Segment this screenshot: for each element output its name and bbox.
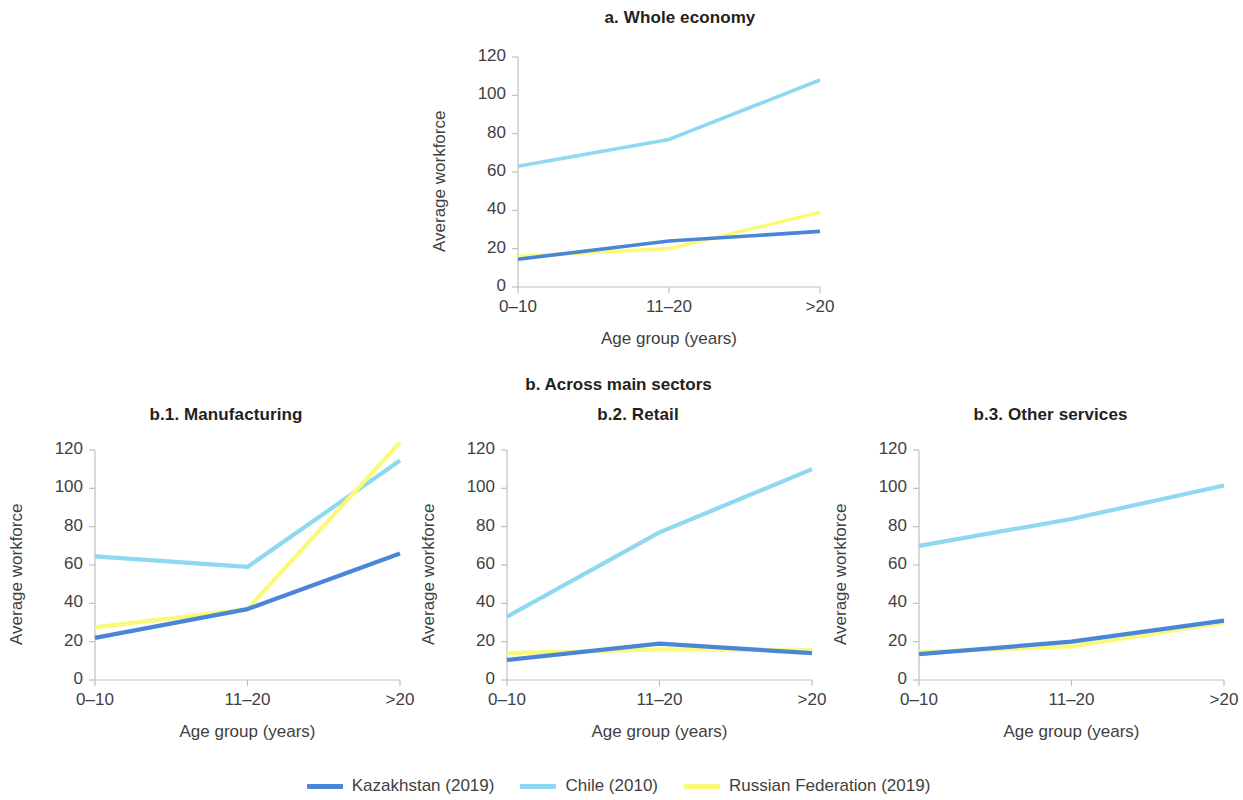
y-tick-label: 40 xyxy=(445,592,495,612)
chart-legend: Kazakhstan (2019)Chile (2010)Russian Fed… xyxy=(0,776,1237,796)
x-axis-title: Age group (years) xyxy=(128,722,368,742)
x-tick-label: 0–10 xyxy=(468,297,568,317)
y-tick-label: 80 xyxy=(445,516,495,536)
y-tick-label: 40 xyxy=(33,592,83,612)
y-axis-title: Average workforce xyxy=(430,111,450,252)
y-tick-label: 100 xyxy=(857,477,907,497)
y-axis-title: Average workforce xyxy=(831,504,851,645)
x-tick-label: 11–20 xyxy=(610,690,710,710)
y-tick-label: 100 xyxy=(33,477,83,497)
legend-swatch-icon xyxy=(307,784,343,789)
panel-other-services: b.3. Other services 0204060801001200–101… xyxy=(824,405,1237,760)
legend-swatch-icon xyxy=(684,784,720,789)
y-tick-label: 60 xyxy=(857,554,907,574)
series-line xyxy=(919,621,1224,655)
section-title-across-main-sectors: b. Across main sectors xyxy=(0,375,1237,395)
y-tick-label: 0 xyxy=(33,669,83,689)
y-axis-title: Average workforce xyxy=(7,504,27,645)
plot-area-other-services: 0204060801001200–1011–20>20Average workf… xyxy=(824,405,1237,760)
x-tick-label: 0–10 xyxy=(869,690,969,710)
y-tick-label: 0 xyxy=(445,669,495,689)
y-tick-label: 60 xyxy=(445,554,495,574)
plot-area-whole-economy: 0204060801001200–1011–20>20Average workf… xyxy=(415,8,885,358)
y-tick-label: 80 xyxy=(857,516,907,536)
legend-item[interactable]: Russian Federation (2019) xyxy=(684,776,930,796)
legend-label: Kazakhstan (2019) xyxy=(352,776,495,796)
x-tick-label: >20 xyxy=(770,297,870,317)
y-tick-label: 100 xyxy=(456,84,506,104)
y-tick-label: 100 xyxy=(445,477,495,497)
y-tick-label: 80 xyxy=(33,516,83,536)
series-line xyxy=(518,231,820,259)
y-tick-label: 120 xyxy=(445,439,495,459)
legend-item[interactable]: Chile (2010) xyxy=(520,776,658,796)
legend-item[interactable]: Kazakhstan (2019) xyxy=(307,776,495,796)
series-line xyxy=(95,442,400,627)
y-tick-label: 0 xyxy=(456,276,506,296)
x-tick-label: 11–20 xyxy=(1022,690,1122,710)
y-tick-label: 60 xyxy=(456,161,506,181)
y-tick-label: 60 xyxy=(33,554,83,574)
series-line xyxy=(518,80,820,166)
legend-swatch-icon xyxy=(520,784,556,789)
y-tick-label: 120 xyxy=(857,439,907,459)
y-tick-label: 80 xyxy=(456,123,506,143)
x-tick-label: 0–10 xyxy=(45,690,145,710)
y-tick-label: 20 xyxy=(445,631,495,651)
plot-area-retail: 0204060801001200–1011–20>20Average workf… xyxy=(412,405,824,760)
x-tick-label: >20 xyxy=(1174,690,1243,710)
x-tick-label: 11–20 xyxy=(619,297,719,317)
y-tick-label: 20 xyxy=(33,631,83,651)
y-tick-label: 20 xyxy=(456,238,506,258)
y-tick-label: 0 xyxy=(857,669,907,689)
legend-label: Russian Federation (2019) xyxy=(729,776,930,796)
y-tick-label: 40 xyxy=(857,592,907,612)
x-axis-title: Age group (years) xyxy=(952,722,1192,742)
plot-area-manufacturing: 0204060801001200–1011–20>20Average workf… xyxy=(0,405,412,760)
x-tick-label: 0–10 xyxy=(457,690,557,710)
y-tick-label: 120 xyxy=(33,439,83,459)
series-line xyxy=(95,461,400,567)
panel-whole-economy: a. Whole economy 0204060801001200–1011–2… xyxy=(415,8,885,358)
x-tick-label: 11–20 xyxy=(198,690,298,710)
y-tick-label: 120 xyxy=(456,46,506,66)
x-axis-title: Age group (years) xyxy=(540,722,780,742)
panel-manufacturing: b.1. Manufacturing 0204060801001200–1011… xyxy=(0,405,412,760)
panel-retail: b.2. Retail 0204060801001200–1011–20>20A… xyxy=(412,405,824,760)
y-tick-label: 40 xyxy=(456,199,506,219)
series-line xyxy=(919,485,1224,545)
series-line xyxy=(507,469,812,617)
y-axis-title: Average workforce xyxy=(419,504,439,645)
y-tick-label: 20 xyxy=(857,631,907,651)
legend-label: Chile (2010) xyxy=(565,776,658,796)
x-axis-title: Age group (years) xyxy=(549,329,789,349)
